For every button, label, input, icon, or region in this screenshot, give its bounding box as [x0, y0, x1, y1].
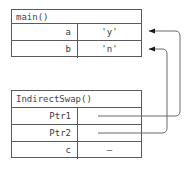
variable-name-b: b: [12, 41, 78, 58]
stack-frame-indirectswap: IndirectSwap() Ptr1 Ptr2 c –: [11, 90, 142, 158]
table-row: a 'y': [12, 24, 141, 41]
table-row: Ptr2: [12, 125, 141, 142]
variable-value-ptr1: [78, 108, 141, 124]
variable-value-a: 'y': [78, 24, 141, 40]
variable-value-c: –: [78, 142, 141, 159]
variable-value-b: 'n': [78, 41, 141, 58]
frame-title-main: main(): [12, 10, 141, 24]
variable-name-ptr2: Ptr2: [12, 125, 78, 141]
table-row: c –: [12, 142, 141, 159]
variable-name-a: a: [12, 24, 78, 40]
variable-value-ptr2: [78, 125, 141, 141]
variable-name-c: c: [12, 142, 78, 159]
frame-title-indirectswap: IndirectSwap(): [12, 91, 141, 108]
variable-name-ptr1: Ptr1: [12, 108, 78, 124]
table-row: b 'n': [12, 41, 141, 58]
table-row: Ptr1: [12, 108, 141, 125]
diagram-canvas: main() a 'y' b 'n' IndirectSwap() Ptr1 P…: [0, 0, 191, 171]
stack-frame-main: main() a 'y' b 'n': [11, 9, 142, 57]
